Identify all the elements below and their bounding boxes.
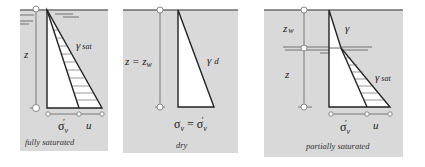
dimension-node-top [301, 7, 307, 13]
lower-depth-label: z [284, 68, 290, 80]
dimension-node [365, 112, 369, 116]
stress-equality-label: σv = σv′ [174, 115, 207, 133]
pore-pressure-label: u [86, 119, 92, 131]
dimension-node [329, 112, 333, 116]
caption-dry: dry [176, 140, 188, 150]
dimension-node-water-table [301, 45, 307, 51]
soil-stress-diagram: z γsat σv′ u fully saturated [0, 0, 425, 167]
pore-pressure-label: u [373, 119, 379, 131]
dimension-node-top [33, 6, 39, 12]
upper-unit-weight-label: γ [345, 22, 350, 34]
depth-label: z [23, 48, 29, 60]
dimension-node-bottom [33, 105, 40, 112]
dimension-node [46, 112, 50, 116]
panel-dry: z = zw γd σv = σv′ dry [123, 7, 238, 153]
caption-fully-saturated: fully saturated [25, 137, 75, 147]
dimension-node-top [157, 7, 163, 13]
dimension-node-bottom [301, 104, 307, 110]
dimension-node [388, 112, 392, 116]
caption-partially-saturated: partially saturated [305, 141, 370, 151]
panel-fully-saturated: z γsat σv′ u fully saturated [20, 6, 108, 151]
dimension-node-bottom [157, 104, 163, 110]
panel-partially-saturated: zw z γ γsat σv′ u partially saturated [264, 7, 403, 157]
dimension-node [100, 112, 104, 116]
dimension-node [77, 112, 81, 116]
